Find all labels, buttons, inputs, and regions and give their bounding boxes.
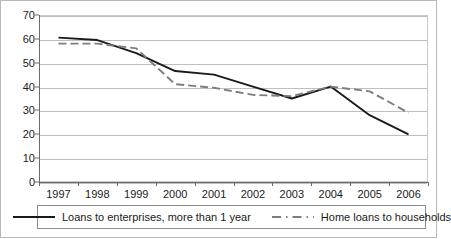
y-axis-tick-label: 0 (5, 177, 35, 188)
x-axis-tick-mark (272, 182, 273, 186)
x-axis-tick-label: 2004 (319, 189, 343, 200)
y-axis-tick-label: 40 (5, 81, 35, 92)
x-axis-tick-mark (195, 182, 196, 186)
x-axis-tick-mark (350, 182, 351, 186)
y-axis-tick-label: 20 (5, 129, 35, 140)
y-axis-tick-label: 70 (5, 10, 35, 21)
x-axis-tick-label: 2005 (357, 189, 381, 200)
series-lines (39, 15, 428, 182)
legend-swatch-solid-icon (12, 212, 56, 222)
x-axis-tick-label: 2000 (163, 189, 187, 200)
y-axis-tick-label: 60 (5, 33, 35, 44)
chart-legend: Loans to enterprises, more than 1 year H… (37, 205, 426, 229)
legend-entry-households: Home loans to households (271, 212, 451, 223)
series-line-enterprises (58, 38, 408, 135)
x-axis-tick-mark (428, 182, 429, 186)
y-axis-tick-label: 10 (5, 153, 35, 164)
x-axis-tick-mark (117, 182, 118, 186)
x-axis-tick-mark (78, 182, 79, 186)
legend-label-households: Home loans to households (321, 212, 451, 223)
legend-swatch-dashed-icon (271, 212, 315, 222)
x-axis-tick-mark (311, 182, 312, 186)
x-axis-tick-label: 2002 (241, 189, 265, 200)
series-line-households (58, 44, 408, 113)
legend-entry-enterprises: Loans to enterprises, more than 1 year (12, 212, 251, 223)
x-axis-tick-mark (39, 182, 40, 186)
x-axis-tick-mark (389, 182, 390, 186)
x-axis-tick-label: 2001 (202, 189, 226, 200)
x-axis-tick-label: 1997 (46, 189, 70, 200)
y-axis-tick-label: 50 (5, 57, 35, 68)
legend-label-enterprises: Loans to enterprises, more than 1 year (62, 212, 251, 223)
x-axis-tick-label: 2003 (280, 189, 304, 200)
x-axis-tick-label: 1999 (124, 189, 148, 200)
x-axis-tick-label: 2006 (396, 189, 420, 200)
x-axis-tick-mark (234, 182, 235, 186)
y-axis-tick-label: 30 (5, 105, 35, 116)
x-axis-tick-label: 1998 (85, 189, 109, 200)
y-axis-tick-labels: 010203040506070 (1, 1, 35, 239)
x-axis-tick-mark (156, 182, 157, 186)
